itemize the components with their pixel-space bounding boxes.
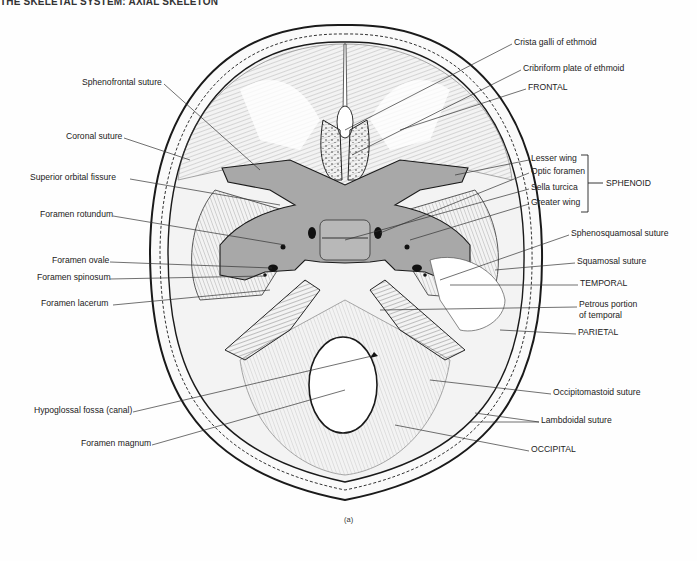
label-petrous-portion-line2: of temporal — [579, 310, 622, 320]
sphenoid-bracket — [581, 155, 603, 212]
label-lesser-wing: Lesser wing — [531, 153, 577, 163]
label-foramen-magnum: Foramen magnum — [81, 438, 151, 448]
label-sphenofrontal-suture: Sphenofrontal suture — [82, 77, 162, 87]
label-foramen-rotundum: Foramen rotundum — [40, 209, 113, 219]
label-sphenosquamosal-suture: Sphenosquamosal suture — [571, 228, 668, 238]
label-occipitomastoid-suture: Occipitomastoid suture — [553, 387, 640, 397]
label-superior-orbital-fissure: Superior orbital fissure — [30, 172, 116, 182]
foramen-magnum-shape — [309, 337, 377, 433]
label-foramen-ovale: Foramen ovale — [52, 255, 109, 265]
label-sphenoid: SPHENOID — [606, 178, 651, 188]
label-greater-wing: Greater wing — [531, 197, 580, 207]
label-temporal: TEMPORAL — [580, 278, 627, 288]
label-parietal: PARIETAL — [578, 327, 618, 337]
label-lambdoidal-suture: Lambdoidal suture — [541, 415, 612, 425]
label-hypoglossal-fossa: Hypoglossal fossa (canal) — [34, 405, 132, 415]
label-crista-galli: Crista galli of ethmoid — [514, 37, 597, 47]
figure-caption: (a) — [344, 515, 353, 524]
label-squamosal-suture: Squamosal suture — [577, 256, 646, 266]
label-optic-foramen: Optic foramen — [531, 166, 585, 176]
label-occipital: OCCIPITAL — [531, 444, 576, 454]
label-sella-turcica: Sella turcica — [531, 182, 578, 192]
label-cribriform-plate: Cribriform plate of ethmoid — [523, 63, 624, 73]
label-foramen-lacerum: Foramen lacerum — [41, 298, 108, 308]
label-frontal: FRONTAL — [528, 82, 567, 92]
label-petrous-portion: Petrous portion — [579, 299, 637, 309]
label-coronal-suture: Coronal suture — [66, 131, 122, 141]
label-foramen-spinosum: Foramen spinosum — [37, 272, 111, 282]
